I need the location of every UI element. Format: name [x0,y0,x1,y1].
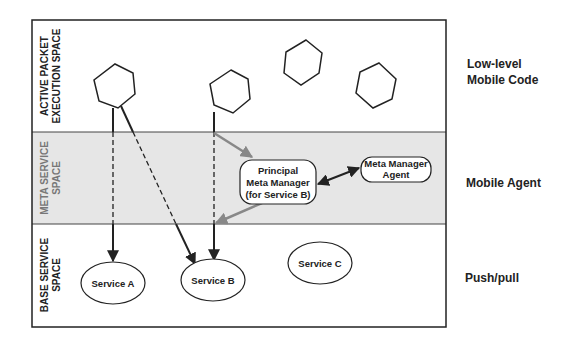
svg-text:SPACE: SPACE [51,258,62,292]
diagram-canvas: ACTIVE PACKET EXECUTION SPACE META SERVI… [0,0,563,345]
svg-text:META SERVICE: META SERVICE [39,141,50,215]
svg-text:ACTIVE PACKET: ACTIVE PACKET [39,36,50,116]
svg-text:Service C: Service C [298,258,341,269]
side-label-line: Mobile Agent [466,175,541,191]
side-label-line: Push/pull [465,270,519,286]
svg-text:SPACE: SPACE [51,161,62,195]
side-label-push-pull: Push/pull [465,270,519,286]
svg-text:Agent: Agent [383,169,411,180]
svg-text:BASE SERVICE: BASE SERVICE [39,238,50,313]
principal-meta-manager-node: Principal Meta Manager (for Service B) [240,160,316,204]
meta-manager-agent-node: Meta Manager Agent [361,157,431,182]
svg-text:Meta Manager: Meta Manager [364,158,428,169]
svg-text:Service B: Service B [191,275,234,286]
active-band-label: ACTIVE PACKET EXECUTION SPACE [39,28,62,123]
svg-text:Service A: Service A [92,278,135,289]
service-c-node: Service C [288,242,352,284]
service-a-node: Service A [81,262,145,304]
svg-text:Principal: Principal [258,165,298,176]
svg-text:(for Service B): (for Service B) [246,189,311,200]
svg-text:Meta Manager: Meta Manager [246,177,310,188]
side-label-mobile-agent: Mobile Agent [466,175,541,191]
side-label-line: Mobile Code [467,72,538,88]
side-label-low-level-mobile-code: Low-level Mobile Code [467,56,538,88]
svg-text:EXECUTION SPACE: EXECUTION SPACE [51,28,62,123]
side-label-line: Low-level [467,56,538,72]
service-b-node: Service B [181,259,245,301]
